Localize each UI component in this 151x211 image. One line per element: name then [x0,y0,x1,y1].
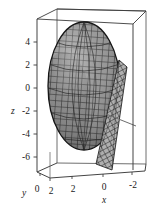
z-tick-label-4: 4 [25,37,30,47]
bounding-box-top-face [37,9,146,24]
z-tick-label-0: 0 [25,83,30,93]
z-tick-label-neg6: -6 [22,152,30,162]
z-axis-title: z [10,106,15,116]
x-axis-title: x [101,195,107,205]
y-tick-label-2: 2 [49,186,54,196]
z-tick-label-neg4: -4 [22,129,30,139]
x-tick-label-neg2: -2 [129,180,137,190]
x-tick-label-0: 0 [102,182,107,192]
z-axis-ticks [34,42,38,157]
plot-canvas: 4 2 0 -2 -4 -6 z 0 2 y 2 0 -2 x [0,0,151,211]
z-tick-label-2: 2 [25,60,30,70]
z-tick-label-neg2: -2 [22,106,30,116]
x-tick-label-2: 2 [71,184,76,194]
y-axis-title: y [21,188,27,198]
y-tick-label-0: 0 [35,184,40,194]
three-d-plot-figure: 4 2 0 -2 -4 -6 z 0 2 y 2 0 -2 x [0,0,151,211]
